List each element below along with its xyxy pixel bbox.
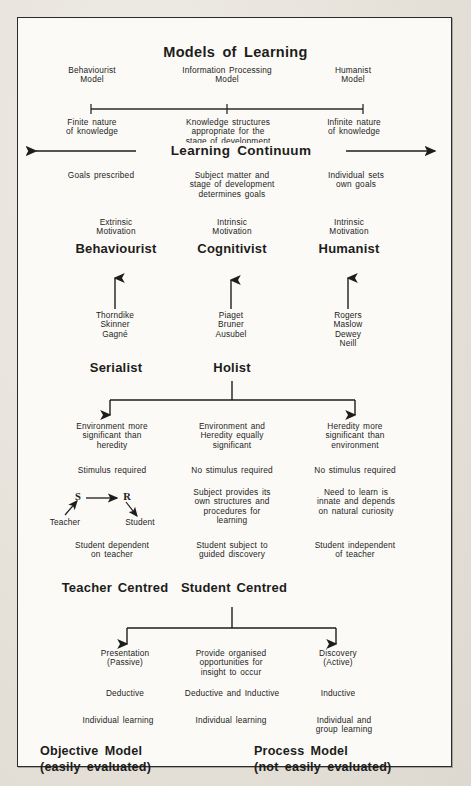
response-letter: R (119, 491, 135, 503)
stimulus-letter: S (70, 491, 86, 503)
method-presentation: Presentation (Passive) (65, 649, 185, 668)
goals-behaviourist: Goals prescribed (46, 171, 156, 180)
model-label-humanist: Humanist Model (306, 66, 400, 85)
motivation-intrinsic-cognitivist: Intrinsic Motivation (178, 218, 286, 237)
theorists-cognitivist: Piaget Bruner Ausubel (181, 311, 281, 339)
nature-nurture-heredity: Heredity more significant than environme… (294, 422, 416, 450)
theorist-arrows (115, 278, 348, 309)
stimulus-none-cognitivist: No stimulus required (168, 466, 296, 475)
scale-desc-knowledge-structures: Knowledge structures appropriate for the… (157, 118, 299, 146)
conclusion-objective-model: Objective Model (easily evaluated) (40, 744, 230, 775)
dependence-on-teacher: Student dependent on teacher (51, 541, 173, 560)
scale-desc-infinite-knowledge: Infinite nature of knowledge (304, 118, 404, 137)
heading-humanist: Humanist (288, 242, 410, 257)
student-centred-branch-connector (127, 607, 336, 644)
method-organised-opportunities: Provide organised opportunities for insi… (168, 649, 294, 677)
dependence-independent: Student independent of teacher (290, 541, 420, 560)
diagram-canvas: Models of Learning Behaviourist Model In… (18, 18, 453, 768)
nature-nurture-equal: Environment and Heredity equally signifi… (171, 422, 293, 450)
diagram-frame: Models of Learning Behaviourist Model In… (17, 17, 452, 767)
scale-desc-finite-knowledge: Finite nature of knowledge (42, 118, 142, 137)
diagram-title: Models of Learning (18, 44, 453, 60)
method-discovery: Discovery (Active) (280, 649, 396, 668)
holist-branch-connector (110, 381, 355, 415)
grouping-individual-cognitivist: Individual learning (166, 716, 296, 725)
goals-humanist: Individual sets own goals (304, 171, 408, 190)
sr-student-label: Student (112, 518, 168, 527)
sr-teacher-label: Teacher (37, 518, 93, 527)
goals-cognitivist: Subject matter and stage of development … (159, 171, 305, 199)
heading-serialist: Serialist (54, 361, 178, 376)
conclusion-process-model: Process Model (not easily evaluated) (254, 744, 454, 775)
mechanism-cognitivist: Subject provides its own structures and … (170, 488, 294, 525)
motivation-extrinsic: Extrinsic Motivation (62, 218, 170, 237)
heading-student-centred: Student Centred (158, 581, 310, 596)
heading-behaviourist: Behaviourist (48, 242, 184, 257)
heading-cognitivist: Cognitivist (168, 242, 296, 257)
grouping-individual-group: Individual and group learning (286, 716, 402, 735)
grouping-individual-behaviourist: Individual learning (53, 716, 183, 725)
motivation-intrinsic-humanist: Intrinsic Motivation (295, 218, 403, 237)
theorists-behaviourist: Thorndike Skinner Gagné (65, 311, 165, 339)
nature-nurture-environment: Environment more significant than heredi… (51, 422, 173, 450)
model-scale-axis (91, 104, 363, 114)
learning-continuum-label: Learning Continuum (136, 143, 346, 158)
stimulus-required: Stimulus required (51, 466, 173, 475)
stimulus-none-humanist: No stimulus required (291, 466, 419, 475)
dependence-guided-discovery: Student subject to guided discovery (170, 541, 294, 560)
model-label-information-processing: Information Processing Model (161, 66, 293, 85)
model-label-behaviourist: Behaviourist Model (46, 66, 138, 85)
theorists-humanist: Rogers Maslow Dewey Neill (298, 311, 398, 348)
mechanism-humanist: Need to learn is innate and depends on n… (292, 488, 420, 516)
reasoning-inductive: Inductive (280, 689, 396, 698)
heading-holist: Holist (174, 361, 290, 376)
